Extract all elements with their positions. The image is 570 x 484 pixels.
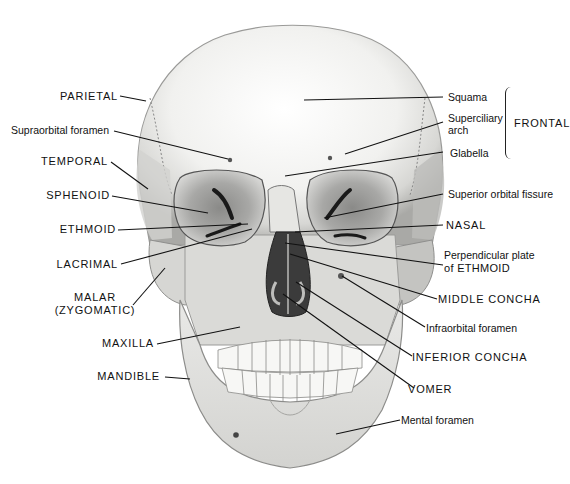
label-glabella: Glabella — [450, 147, 489, 159]
label-malar: MALAR — [50, 291, 140, 303]
label-mandible: MANDIBLE — [10, 370, 160, 382]
label-frontal: FRONTAL — [514, 117, 570, 129]
label-squama: Squama — [448, 91, 487, 103]
skull-diagram: PARIETAL Supraorbital foramen TEMPORAL S… — [0, 0, 570, 484]
label-superciliary-arch: arch — [448, 124, 468, 136]
frontal-group-brace — [505, 87, 514, 159]
label-vomer: VOMER — [408, 383, 452, 395]
label-infraorbital-foramen: Infraorbital foramen — [426, 322, 517, 334]
label-ethmoid: ETHMOID — [10, 223, 116, 235]
teeth — [218, 339, 362, 401]
label-temporal: TEMPORAL — [10, 155, 108, 167]
label-sphenoid: SPHENOID — [10, 189, 110, 201]
label-inferior-concha: INFERIOR CONCHA — [412, 351, 527, 363]
label-maxilla: MAXILLA — [10, 337, 154, 349]
label-supraorbital-foramen: Supraorbital foramen — [11, 124, 109, 136]
label-parietal: PARIETAL — [20, 90, 118, 102]
label-perpendicular-plate: Perpendicular plate — [444, 249, 534, 261]
label-nasal: NASAL — [446, 219, 486, 231]
label-mental-foramen: Mental foramen — [401, 414, 474, 426]
label-superior-orbital-fissure: Superior orbital fissure — [448, 188, 553, 200]
left-orbit — [174, 170, 265, 246]
label-middle-concha: MIDDLE CONCHA — [438, 293, 541, 305]
label-of-ethmoid: of ETHMOID — [444, 262, 510, 274]
skull-illustration — [0, 0, 570, 484]
label-zygomatic: (ZYGOMATIC) — [50, 304, 140, 316]
label-lacrimal: LACRIMAL — [10, 258, 118, 270]
label-superciliary: Superciliary — [448, 112, 503, 124]
